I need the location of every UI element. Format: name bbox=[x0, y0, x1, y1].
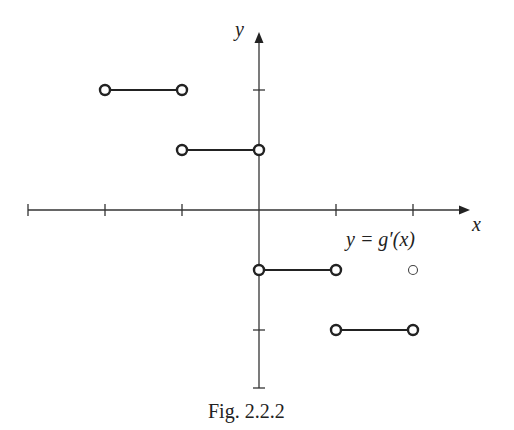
plot-canvas bbox=[0, 0, 514, 430]
y-axis-label: y bbox=[235, 18, 244, 41]
open-endpoint bbox=[177, 145, 187, 155]
figure-caption: Fig. 2.2.2 bbox=[208, 400, 285, 423]
open-endpoint bbox=[408, 325, 418, 335]
annotation-markers bbox=[409, 266, 418, 275]
x-axis-label: x bbox=[472, 213, 481, 236]
y-axis-arrow-icon bbox=[255, 32, 264, 43]
open-endpoint bbox=[177, 85, 187, 95]
open-endpoint bbox=[331, 265, 341, 275]
open-endpoint bbox=[100, 85, 110, 95]
function-label: y = g′(x) bbox=[346, 228, 415, 251]
axes bbox=[28, 32, 470, 388]
open-endpoint bbox=[331, 325, 341, 335]
open-endpoint bbox=[254, 265, 264, 275]
small-open-circle bbox=[409, 266, 418, 275]
open-endpoint bbox=[254, 145, 264, 155]
x-axis-arrow-icon bbox=[459, 206, 470, 215]
